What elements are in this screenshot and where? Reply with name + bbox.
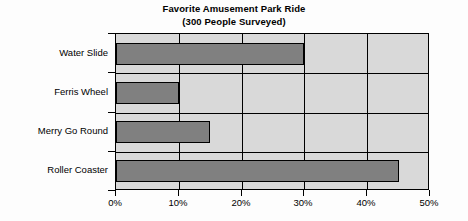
y-axis-tick [108,151,115,152]
x-axis-label: 20% [216,197,266,209]
y-axis-tick [108,112,115,113]
y-axis-labels: Water SlideFerris WheelMerry Go RoundRol… [0,33,108,190]
bar [116,121,210,143]
x-axis-tick [366,190,367,196]
bar-chart-figure: Favorite Amusement Park Ride (300 People… [0,0,468,221]
x-axis-tick [241,190,242,196]
x-axis-tick [303,190,304,196]
category-separator [116,152,428,153]
bar [116,160,399,182]
x-axis-tick [429,190,430,196]
x-axis-label: 50% [404,197,454,209]
y-axis-tick [108,33,115,34]
x-axis-label: 40% [341,197,391,209]
y-axis-tick [108,72,115,73]
y-axis-label: Roller Coaster [0,164,108,175]
bar [116,82,179,104]
category-separator [116,73,428,74]
category-separator [116,113,428,114]
chart-title-block: Favorite Amusement Park Ride (300 People… [0,2,468,28]
x-axis-label: 0% [90,197,140,209]
y-axis-label: Water Slide [0,47,108,58]
x-axis-label: 10% [153,197,203,209]
x-axis-tick [178,190,179,196]
y-axis-label: Merry Go Round [0,125,108,136]
x-axis-label: 30% [278,197,328,209]
y-axis-label: Ferris Wheel [0,86,108,97]
y-axis-tick [108,190,115,191]
x-axis-tick [115,190,116,196]
chart-title: Favorite Amusement Park Ride [0,2,468,15]
bar [116,43,304,65]
plot-area [115,33,429,190]
chart-subtitle: (300 People Surveyed) [0,15,468,28]
